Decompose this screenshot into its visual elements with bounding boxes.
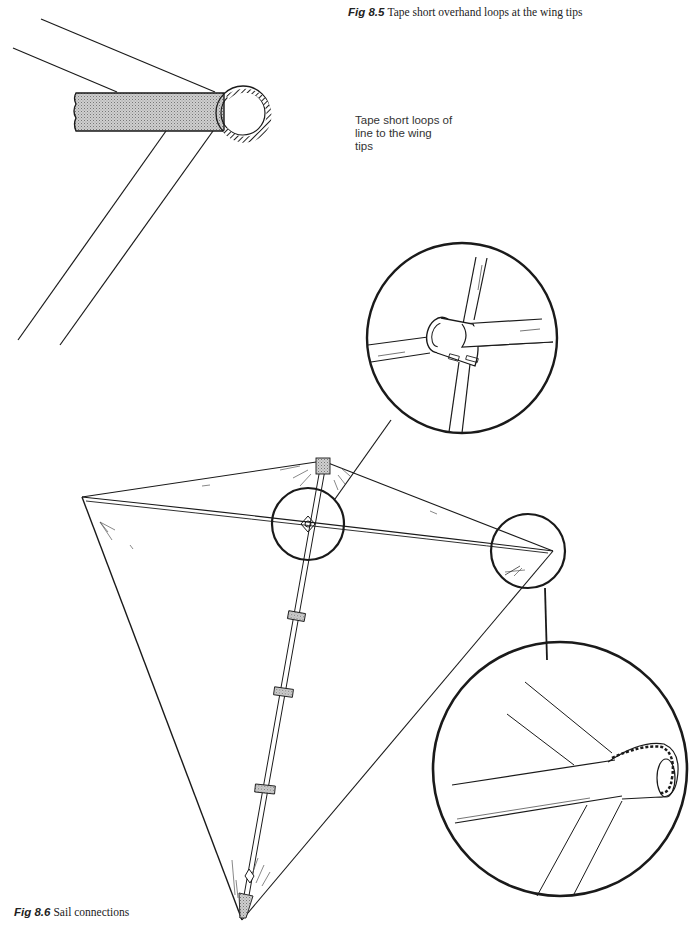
kite-illustration xyxy=(0,0,690,939)
tape-3 xyxy=(255,784,276,794)
bottom-tape xyxy=(239,893,253,918)
sail-stress-marks xyxy=(100,466,525,898)
fig-8-5-wing-tip-detail xyxy=(13,19,271,345)
top-tape xyxy=(316,458,330,474)
center-joint-callout xyxy=(272,420,391,560)
tape-2 xyxy=(274,687,294,698)
kite-sail xyxy=(82,461,553,920)
wing-tip-magnified xyxy=(433,642,687,896)
wing-tip-callout xyxy=(491,514,565,660)
center-joint-magnified xyxy=(367,243,557,433)
tape-1 xyxy=(287,611,305,622)
